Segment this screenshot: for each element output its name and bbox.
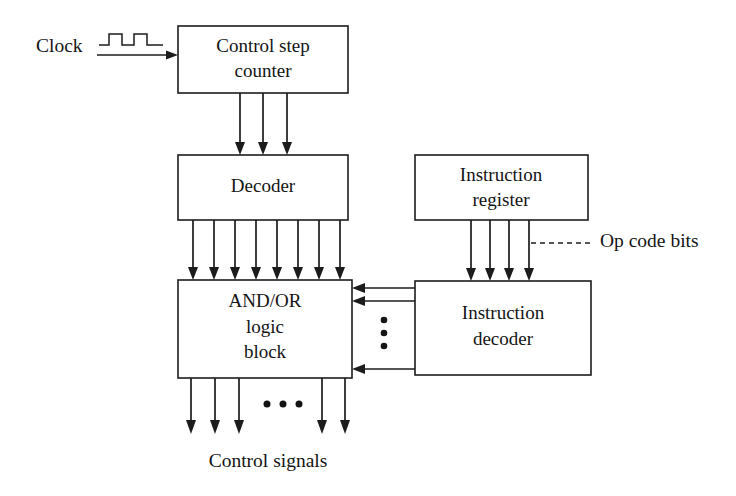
decoder-logic-arrowhead-3-icon [230,267,240,280]
decoder-logic-arrowhead-7-icon [314,267,324,280]
diagram-canvas: Clock Control step counter Decoder [0,0,736,496]
idecoder-ellipsis-dot-2-icon [381,330,388,337]
counter-decoder-arrowhead-1-icon [235,142,245,155]
decoder-label: Decoder [231,175,296,196]
control-step-counter-label-line2: counter [235,60,293,81]
ireg-idecoder-arrowhead-2-icon [485,268,495,281]
decoder-logic-arrowhead-5-icon [272,267,282,280]
ireg-idecoder-arrowhead-4-icon [524,268,534,281]
idecoder-to-logic-bus [352,283,415,374]
idecoder-logic-arrowhead-1-icon [352,283,365,293]
clock-label: Clock [36,35,83,56]
decoder-block[interactable]: Decoder [178,155,348,220]
control-signal-ellipsis-dot-3-icon [296,401,303,408]
instruction-register-block[interactable]: Instruction register [415,155,588,220]
clock-waveform-icon [99,34,163,45]
decoder-logic-arrowhead-6-icon [293,267,303,280]
and-or-logic-label-line2: logic [246,316,284,337]
ireg-idecoder-arrowhead-1-icon [466,268,476,281]
control-signal-arrowhead-4-icon [317,420,327,434]
ireg-to-idecoder-bus [466,220,534,281]
idecoder-ellipsis-dot-1-icon [381,317,388,324]
control-step-counter-label-line1: Control step [216,35,309,56]
op-code-bits-callout: Op code bits [531,230,699,251]
decoder-logic-arrowhead-1-icon [188,267,198,280]
decoder-logic-arrowhead-2-icon [209,267,219,280]
control-signals-label: Control signals [209,450,328,471]
counter-decoder-arrowhead-3-icon [282,142,292,155]
control-signal-arrowhead-1-icon [186,420,196,434]
op-code-bits-label: Op code bits [600,230,699,251]
control-signal-ellipsis-dot-1-icon [264,401,271,408]
decoder-logic-arrowhead-4-icon [251,267,261,280]
decoder-to-logic-bus [188,220,345,280]
counter-to-decoder-bus [235,93,292,155]
counter-decoder-arrowhead-2-icon [258,142,268,155]
instruction-register-label-line2: register [473,189,531,210]
idecoder-logic-arrowhead-2-icon [352,296,365,306]
and-or-logic-label-line1: AND/OR [229,290,302,311]
control-signal-arrowhead-3-icon [234,420,244,434]
clock-arrowhead-icon [166,51,178,60]
clock-input-group: Clock [36,34,178,60]
control-signal-arrowhead-2-icon [210,420,220,434]
idecoder-logic-arrowhead-3-icon [352,364,365,374]
block-diagram-figure: Clock Control step counter Decoder [0,0,736,496]
instruction-decoder-block[interactable]: Instruction decoder [415,281,591,375]
logic-output-bus: Control signals [186,378,350,471]
control-signal-arrowhead-5-icon [340,420,350,434]
control-signal-ellipsis-dot-2-icon [280,401,287,408]
instruction-decoder-label-line1: Instruction [462,302,545,323]
instruction-register-label-line1: Instruction [460,164,543,185]
instruction-decoder-label-line2: decoder [473,328,534,349]
ireg-idecoder-arrowhead-3-icon [504,268,514,281]
control-step-counter-block[interactable]: Control step counter [178,26,348,93]
and-or-logic-label-line3: block [244,341,287,362]
and-or-logic-block[interactable]: AND/OR logic block [178,280,352,378]
idecoder-ellipsis-dot-3-icon [381,343,388,350]
decoder-logic-arrowhead-8-icon [335,267,345,280]
